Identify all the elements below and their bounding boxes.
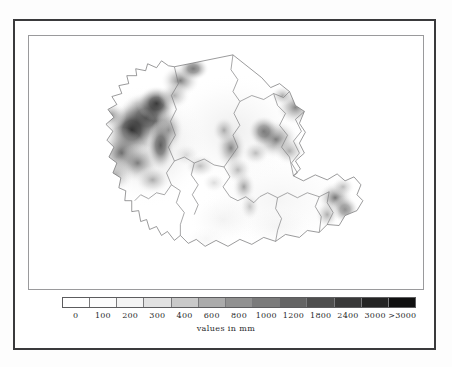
colorbar-tick-1: 100 [95,310,111,322]
colorbar-tick-9: 1800 [310,310,331,322]
colorbar-swatch-11 [362,298,389,307]
legend: 010020030040060080010001200180024003000>… [28,297,424,347]
colorbar-swatch-12 [389,298,415,307]
colorbar-tick-5: 600 [204,310,220,322]
colorbar-swatch-7 [253,298,280,307]
colorbar-swatch-2 [117,298,144,307]
colorbar-tick-12: >3000 [388,310,416,322]
figure-outer-frame: 010020030040060080010001200180024003000>… [13,19,436,350]
colorbar-swatch-6 [226,298,253,307]
colorbar-swatch-10 [335,298,362,307]
colorbar-tick-3: 300 [149,310,165,322]
colorbar-swatch-9 [307,298,334,307]
colorbar-swatch-5 [199,298,226,307]
colorbar-tick-0: 0 [73,310,78,322]
colorbar-swatch-4 [172,298,199,307]
colorbar-tick-2: 200 [122,310,138,322]
colorbar-swatch-0 [63,298,90,307]
map-panel [28,35,424,290]
colorbar-tick-7: 1000 [256,310,277,322]
colorbar-tick-4: 400 [177,310,193,322]
figure-page: 010020030040060080010001200180024003000>… [0,0,452,367]
colorbar-tick-8: 1200 [283,310,304,322]
colorbar-swatch-3 [144,298,171,307]
colorbar-tick-labels: 010020030040060080010001200180024003000>… [62,310,416,323]
colorbar-swatch-8 [280,298,307,307]
colorbar-tick-6: 800 [231,310,247,322]
colorbar-tick-10: 2400 [337,310,358,322]
colorbar-swatch-1 [90,298,117,307]
colorbar [62,297,416,308]
colorbar-tick-11: 3000 [365,310,386,322]
raster-field [30,36,423,289]
precipitation-map [29,36,423,289]
legend-caption: values in mm [28,324,424,333]
